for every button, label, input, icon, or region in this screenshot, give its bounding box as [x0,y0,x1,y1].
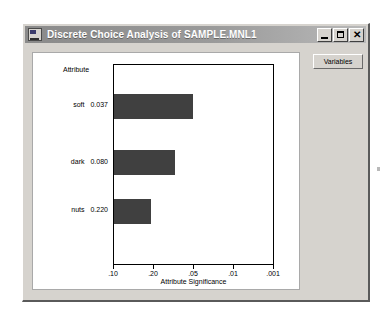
category-name: nuts [71,206,84,213]
x-tick-label: .01 [228,270,238,277]
category-value: 0.220 [90,206,108,213]
category-value: 0.037 [90,101,108,108]
x-tick-label: .001 [266,270,280,277]
category-label-dark: dark0.080 [71,158,108,165]
bar-nuts [114,199,151,224]
variables-button[interactable]: Variables [313,54,363,69]
window-client-area: Attribute soft0.037 dark0.080 nuts0.220 [25,45,366,298]
minimize-button[interactable] [317,28,332,42]
chart-panel: Attribute soft0.037 dark0.080 nuts0.220 [32,52,300,290]
window-title: Discrete Choice Analysis of SAMPLE.MNL1 [47,29,316,40]
scan-artifact [377,167,380,171]
x-tick-label: .05 [188,270,198,277]
maximize-button[interactable] [333,28,348,42]
application-window: Discrete Choice Analysis of SAMPLE.MNL1 … [22,23,370,302]
bar-dark [114,150,175,175]
category-value: 0.080 [90,158,108,165]
y-axis-title: Attribute [63,66,89,73]
category-label-nuts: nuts0.220 [71,206,108,213]
category-name: soft [73,101,84,108]
bar-soft [114,94,193,119]
x-axis-title: Attribute Significance [113,278,274,285]
x-tick-label: .20 [148,270,158,277]
close-icon[interactable]: ✕ [349,28,364,42]
category-label-soft: soft0.037 [73,101,108,108]
application-icon [28,28,42,41]
category-name: dark [71,158,85,165]
title-bar[interactable]: Discrete Choice Analysis of SAMPLE.MNL1 … [25,26,366,43]
x-tick-label: .10 [108,270,118,277]
